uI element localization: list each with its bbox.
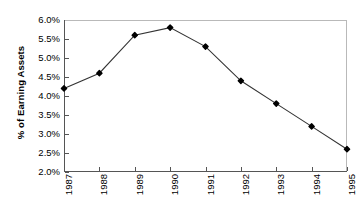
y-axis-tick bbox=[65, 77, 69, 78]
y-axis-tick-label: 3.0% bbox=[24, 129, 60, 139]
x-axis-tick bbox=[170, 167, 171, 171]
x-axis-tick bbox=[312, 167, 313, 171]
x-axis-tick-label-text: 1987 bbox=[64, 174, 74, 195]
y-axis-tick bbox=[65, 134, 69, 135]
x-axis-tick bbox=[64, 167, 65, 171]
x-axis-tick-label-text: 1994 bbox=[312, 174, 322, 195]
plot-area bbox=[64, 20, 347, 172]
x-axis-tick-label: 1995 bbox=[341, 172, 353, 212]
x-axis-tick-label-text: 1992 bbox=[241, 174, 251, 195]
x-axis-tick-label: 1988 bbox=[93, 172, 105, 212]
y-axis-tick bbox=[65, 153, 69, 154]
x-axis-tick-label-text: 1993 bbox=[276, 174, 286, 195]
x-axis-tick-labels: 198719881989199019911992199319941995 bbox=[64, 172, 347, 216]
y-axis-tick bbox=[65, 58, 69, 59]
y-axis-tick bbox=[65, 39, 69, 40]
x-axis-tick-label-text: 1995 bbox=[347, 174, 357, 195]
y-axis-tick bbox=[65, 115, 69, 116]
x-axis-tick-label: 1987 bbox=[58, 172, 70, 212]
y-axis-tick-label: 4.5% bbox=[24, 72, 60, 82]
y-axis-tick-label: 3.5% bbox=[24, 110, 60, 120]
x-axis-tick bbox=[206, 167, 207, 171]
x-axis-tick-label: 1990 bbox=[164, 172, 176, 212]
x-axis-tick-label: 1992 bbox=[235, 172, 247, 212]
x-axis-tick-label-text: 1989 bbox=[135, 174, 145, 195]
x-axis-tick-label: 1993 bbox=[270, 172, 282, 212]
x-axis-tick bbox=[347, 167, 348, 171]
x-axis-tick-label: 1991 bbox=[200, 172, 212, 212]
x-axis-tick-label-text: 1991 bbox=[206, 174, 216, 195]
y-axis-tick-label: 2.0% bbox=[24, 167, 60, 177]
x-axis-tick-label-text: 1990 bbox=[170, 174, 180, 195]
data-point-marker bbox=[61, 86, 66, 91]
x-axis-tick bbox=[276, 167, 277, 171]
y-axis-tick bbox=[65, 96, 69, 97]
y-axis-tick-label: 6.0% bbox=[24, 15, 60, 25]
x-axis-tick-label: 1994 bbox=[306, 172, 318, 212]
y-axis-tick-labels: 6.0%5.5%5.0%4.5%4.0%3.5%3.0%2.5%2.0% bbox=[24, 0, 60, 216]
x-axis-tick-label-text: 1988 bbox=[99, 174, 109, 195]
y-axis-tick-label: 5.5% bbox=[24, 34, 60, 44]
y-axis-tick-label: 2.5% bbox=[24, 148, 60, 158]
data-point-marker bbox=[168, 25, 173, 30]
y-axis-tick-label: 5.0% bbox=[24, 53, 60, 63]
x-axis-tick bbox=[135, 167, 136, 171]
y-axis-tick-label: 4.0% bbox=[24, 91, 60, 101]
x-axis-tick bbox=[99, 167, 100, 171]
data-series bbox=[64, 20, 347, 172]
x-axis-tick bbox=[241, 167, 242, 171]
x-axis-tick-label: 1989 bbox=[129, 172, 141, 212]
